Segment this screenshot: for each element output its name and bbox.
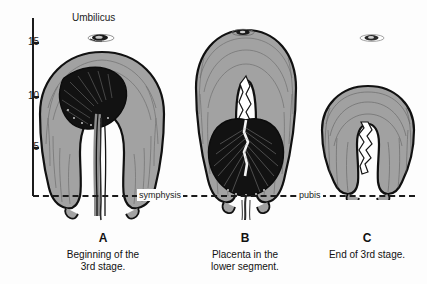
caption-letter-c: C — [310, 231, 424, 246]
umbilical-cord-a — [100, 118, 101, 220]
y-axis-tick-mark-15 — [32, 42, 39, 44]
uterine-cavity-c — [359, 122, 372, 174]
figure-panel-c-uterus — [316, 82, 420, 200]
caption-text-a: Beginning of the 3rd stage. — [32, 249, 174, 273]
figure-panel-b-uterus — [186, 24, 306, 224]
umbilicus-marker-icon-a — [86, 31, 116, 45]
symphysis-pubis-baseline — [33, 195, 415, 197]
pubis-label: pubis — [297, 189, 323, 201]
symphysis-label: symphysis — [137, 189, 183, 201]
caption-text-c: End of 3rd stage. — [310, 249, 424, 261]
caption-panel-b: B Placenta in the lower segment. — [178, 231, 312, 273]
caption-letter-b: B — [178, 231, 312, 246]
caption-panel-c: C End of 3rd stage. — [310, 231, 424, 261]
umbilicus-marker-icon-b — [230, 26, 256, 39]
umbilicus-label: Umbilicus — [72, 12, 115, 23]
caption-text-b: Placenta in the lower segment. — [178, 249, 312, 273]
figure-root: 15 10 5 Umbilicus — [0, 0, 427, 284]
umbilical-cord-b — [245, 196, 246, 220]
y-axis-tick-15: 15 — [0, 42, 39, 44]
caption-panel-a: A Beginning of the 3rd stage. — [32, 231, 174, 273]
umbilicus-marker-icon-c — [358, 31, 386, 45]
caption-letter-a: A — [32, 231, 174, 246]
